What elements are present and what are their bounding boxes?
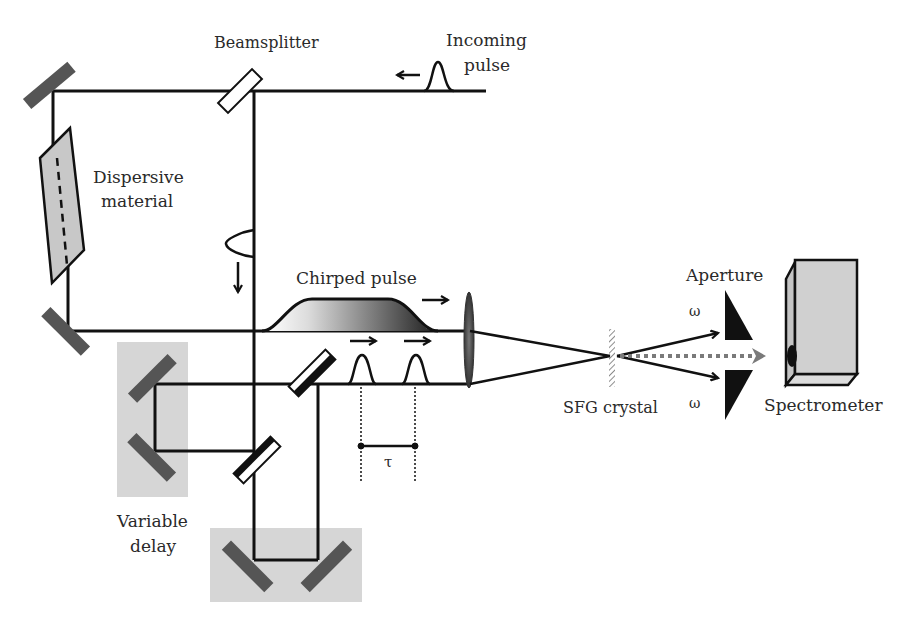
label-omega-top: ω (689, 303, 700, 319)
optical-setup-diagram: Beamsplitter Incoming pulse Dispersive m… (0, 0, 908, 624)
dispersive-material (40, 128, 84, 283)
label-dispersive-1: Dispersive (93, 167, 184, 187)
incoming-pulse (397, 62, 454, 91)
label-variable-delay-2: delay (130, 536, 177, 556)
beamsplitter-combiner (289, 350, 336, 397)
label-incoming-pulse-2: pulse (464, 55, 510, 75)
mirror-top-left (23, 62, 76, 109)
beamsplitter-delay (234, 437, 281, 484)
label-variable-delay-1: Variable (116, 511, 188, 531)
label-tau: τ (384, 453, 392, 471)
reflected-pulse (226, 230, 254, 292)
variable-delay-stage (117, 342, 188, 497)
spectrometer-entrance-slit (787, 345, 797, 367)
label-dispersive-2: material (101, 191, 173, 211)
label-spectrometer: Spectrometer (764, 395, 883, 415)
chirped-pulse (262, 299, 448, 331)
label-sfg-crystal: SFG crystal (563, 398, 658, 417)
focusing-lens (464, 292, 474, 388)
pulse-pair (348, 341, 430, 384)
sfg-crystal (609, 329, 615, 387)
label-omega-bottom: ω (689, 395, 700, 411)
fixed-delay-stage (210, 528, 362, 602)
spectrometer (786, 260, 857, 385)
focusing-beams (470, 331, 718, 384)
label-incoming-pulse-1: Incoming (446, 30, 527, 50)
label-chirped-pulse: Chirped pulse (296, 268, 417, 288)
label-beamsplitter: Beamsplitter (214, 33, 319, 52)
label-aperture: Aperture (685, 265, 763, 285)
